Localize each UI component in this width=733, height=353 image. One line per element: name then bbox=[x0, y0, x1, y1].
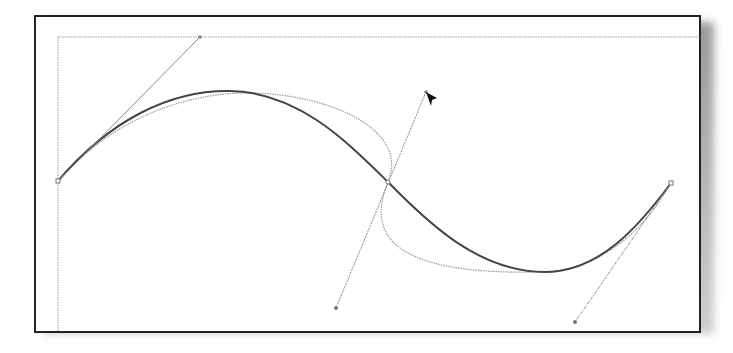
main-curve[interactable] bbox=[58, 91, 671, 272]
right-handle-line bbox=[575, 183, 671, 322]
guides bbox=[58, 37, 701, 331]
handles bbox=[58, 37, 671, 322]
left-handle-line bbox=[58, 37, 200, 181]
cursor-arrow-icon bbox=[426, 92, 437, 106]
middle-handle-bottom-point[interactable] bbox=[334, 306, 338, 310]
right-anchor[interactable] bbox=[669, 181, 673, 185]
preview-curve bbox=[58, 93, 671, 272]
right-handle-point[interactable] bbox=[573, 320, 577, 324]
left-handle-point[interactable] bbox=[198, 35, 202, 39]
bezier-canvas[interactable] bbox=[0, 0, 733, 353]
middle-anchor[interactable] bbox=[386, 180, 390, 184]
middle-handle-line bbox=[336, 92, 426, 308]
left-anchor[interactable] bbox=[56, 179, 60, 183]
